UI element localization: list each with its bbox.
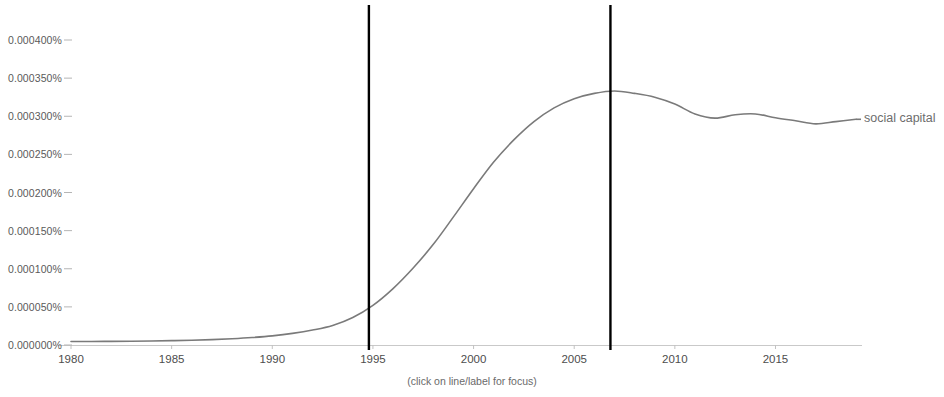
x-tick-label-1985: 1985	[142, 353, 202, 365]
y-tick-label-7: 0.000350%	[0, 72, 62, 84]
y-tick-label-6: 0.000300%	[0, 110, 62, 122]
marker-lines-group[interactable]	[369, 5, 611, 350]
chart-caption: (click on line/label for focus)	[0, 375, 944, 387]
y-tick-label-1: 0.000050%	[0, 301, 62, 313]
y-tick-label-2: 0.000100%	[0, 263, 62, 275]
axis-group	[58, 40, 862, 349]
x-tick-label-2010: 2010	[645, 353, 705, 365]
x-tick-label-2015: 2015	[745, 353, 805, 365]
x-tick-label-1995: 1995	[343, 353, 403, 365]
x-tick-label-1980: 1980	[41, 353, 101, 365]
x-tick-label-1990: 1990	[242, 353, 302, 365]
y-tick-label-3: 0.000150%	[0, 225, 62, 237]
y-tick-label-5: 0.000250%	[0, 148, 62, 160]
y-tick-label-4: 0.000200%	[0, 187, 62, 199]
y-tick-label-8: 0.000400%	[0, 34, 62, 46]
x-tick-label-2000: 2000	[444, 353, 504, 365]
series-label-0[interactable]: social capital	[864, 111, 936, 125]
y-tick-label-0: 0.000000%	[0, 339, 62, 351]
x-tick-label-2005: 2005	[544, 353, 604, 365]
chart-plot-area[interactable]	[0, 0, 944, 397]
ngram-chart: 0.000000%0.000050%0.000100%0.000150%0.00…	[0, 0, 944, 397]
series-line-0[interactable]	[71, 91, 856, 342]
series-group[interactable]	[71, 91, 861, 342]
